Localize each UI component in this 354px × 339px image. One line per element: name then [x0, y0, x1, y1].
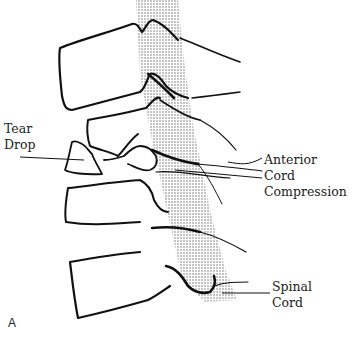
anterior-cord-leader [228, 158, 262, 164]
panel-letter: A [8, 316, 16, 330]
diagram-canvas: Tear Drop Anterior Cord Compression Spin… [0, 0, 354, 339]
fractured-vertebra [104, 146, 157, 170]
anterior-cord-compression-label: Anterior Cord Compression [264, 152, 347, 200]
tear-drop-label: Tear Drop [4, 121, 36, 153]
tear-drop-fragment [65, 141, 102, 174]
spinal-cord-label: Spinal Cord [272, 279, 312, 311]
vertebra-4 [70, 252, 170, 318]
vertebra-3 [65, 180, 168, 224]
tear-drop-leader [20, 157, 84, 160]
